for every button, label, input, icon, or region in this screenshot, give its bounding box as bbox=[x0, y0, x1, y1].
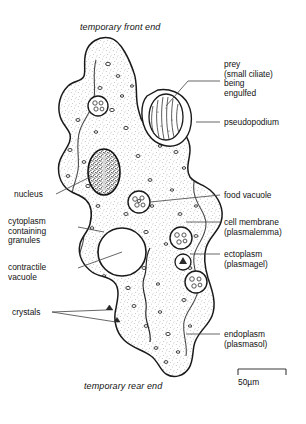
label-endoplasm: endoplasm (plasmasol) bbox=[224, 330, 267, 349]
food-vacuole bbox=[185, 271, 207, 293]
label-contractile-vacuole: contractile vacuole bbox=[8, 263, 46, 282]
label-food-vacuole: food vacuole bbox=[224, 191, 272, 201]
label-prey: prey (small ciliate) being engulfed bbox=[224, 60, 273, 98]
label-nucleus: nucleus bbox=[14, 190, 43, 200]
label-crystals: crystals bbox=[12, 308, 40, 318]
food-vacuole bbox=[170, 227, 192, 249]
label-pseudopodium: pseudopodium bbox=[224, 118, 279, 128]
food-vacuole bbox=[128, 191, 150, 213]
amoeba-diagram: temporary front end temporary rear end p… bbox=[0, 0, 306, 424]
label-ectoplasm: ectoplasm (plasmagel) bbox=[224, 250, 268, 269]
label-cytoplasm: cytoplasm containing granules bbox=[8, 217, 46, 246]
nucleus-organelle bbox=[88, 149, 120, 195]
caption-front-end: temporary front end bbox=[80, 22, 160, 32]
caption-rear-end: temporary rear end bbox=[84, 381, 162, 391]
food-vacuole bbox=[88, 96, 108, 116]
label-cell-membrane: cell membrane (plasmalemma) bbox=[224, 218, 282, 237]
scale-bar bbox=[238, 369, 286, 375]
scale-bar-label: 50µm bbox=[238, 377, 259, 387]
